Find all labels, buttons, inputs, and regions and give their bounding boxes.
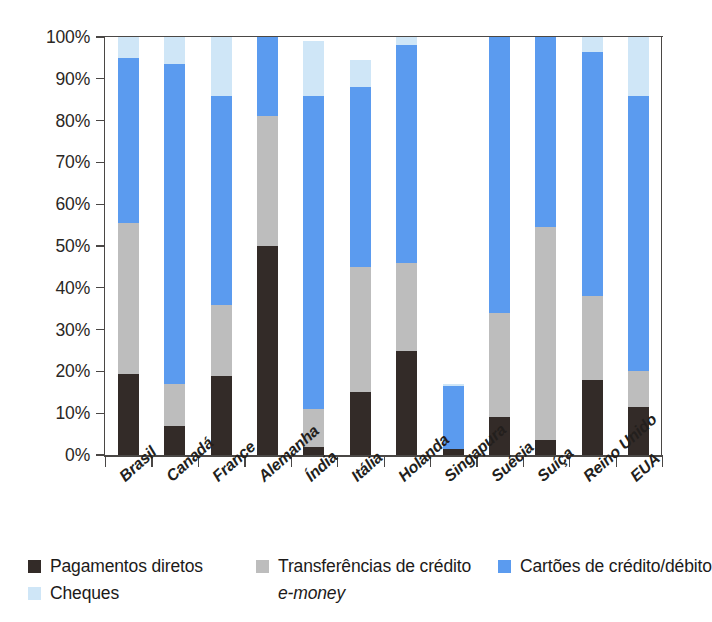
- y-tick-label: 10%: [0, 403, 90, 424]
- legend-row: Chequese-money: [28, 583, 688, 610]
- y-tick-mark: [96, 204, 105, 205]
- bar-segment: [303, 96, 324, 410]
- legend-label: e-money: [278, 583, 345, 604]
- bar-segment: [257, 246, 278, 455]
- bar-segment: [118, 37, 139, 58]
- y-tick-label: 50%: [0, 236, 90, 257]
- y-tick-mark: [96, 120, 105, 121]
- y-tick-label: 30%: [0, 320, 90, 341]
- bar-segment: [164, 37, 185, 64]
- y-tick-label: 20%: [0, 361, 90, 382]
- y-tick-label: 40%: [0, 278, 90, 299]
- legend-item[interactable]: e-money: [256, 583, 345, 604]
- bar-eua[interactable]: [628, 37, 649, 455]
- bar-segment: [164, 64, 185, 384]
- y-tick-mark: [96, 162, 105, 163]
- bar-segment: [535, 227, 556, 440]
- bar-segment: [396, 45, 417, 262]
- y-tick-mark: [96, 36, 105, 37]
- bar-segment: [257, 37, 278, 116]
- bar-segment: [118, 374, 139, 456]
- bar-segment: [350, 60, 371, 87]
- bar-reino-unido[interactable]: [582, 37, 603, 455]
- legend-item[interactable]: Cheques: [28, 583, 119, 604]
- bar-itália[interactable]: [350, 60, 371, 455]
- bar-segment: [164, 384, 185, 426]
- bar-segment: [350, 87, 371, 267]
- y-tick-label: 80%: [0, 111, 90, 132]
- y-tick-label: 90%: [0, 69, 90, 90]
- bar-segment: [350, 392, 371, 455]
- bar-segment: [489, 37, 510, 313]
- legend-item[interactable]: Pagamentos diretos: [28, 556, 203, 577]
- y-tick-mark: [96, 371, 105, 372]
- bar-segment: [211, 305, 232, 376]
- bar-segment: [118, 58, 139, 223]
- bar-brasil[interactable]: [118, 37, 139, 455]
- y-tick-mark: [96, 78, 105, 79]
- legend-label: Transferências de crédito: [278, 556, 471, 577]
- legend-swatch-icon: [28, 587, 41, 600]
- bar-suíça[interactable]: [535, 37, 556, 455]
- legend-swatch-icon: [256, 587, 269, 600]
- legend-swatch-icon: [28, 560, 41, 573]
- bar-segment: [582, 296, 603, 380]
- bar-segment: [628, 371, 649, 407]
- y-tick-label: 0%: [0, 445, 90, 466]
- bar-alemanha[interactable]: [257, 37, 278, 455]
- legend-label: Pagamentos diretos: [50, 556, 203, 577]
- plot-area: [105, 37, 662, 455]
- chart-legend: Pagamentos diretosTransferências de créd…: [28, 556, 688, 610]
- bar-segment: [211, 37, 232, 96]
- bar-suécia[interactable]: [489, 37, 510, 455]
- x-tick-mark: [105, 456, 106, 467]
- bar-segment: [489, 313, 510, 418]
- bar-holanda[interactable]: [396, 37, 417, 455]
- legend-item[interactable]: Transferências de crédito: [256, 556, 471, 577]
- bar-segment: [396, 263, 417, 351]
- bar-segment: [582, 52, 603, 297]
- bar-segment: [303, 41, 324, 95]
- bar-índia[interactable]: [303, 41, 324, 455]
- bar-segment: [211, 96, 232, 305]
- y-tick-mark: [96, 245, 105, 246]
- legend-label: Cartões de crédito/débito: [520, 556, 712, 577]
- legend-label: Cheques: [50, 583, 119, 604]
- y-tick-mark: [96, 329, 105, 330]
- legend-swatch-icon: [498, 560, 511, 573]
- legend-item[interactable]: Cartões de crédito/débito: [498, 556, 712, 577]
- bar-canadá[interactable]: [164, 37, 185, 455]
- y-tick-mark: [96, 287, 105, 288]
- bar-segment: [582, 380, 603, 455]
- y-tick-label: 60%: [0, 194, 90, 215]
- bar-segment: [118, 223, 139, 373]
- legend-row: Pagamentos diretosTransferências de créd…: [28, 556, 688, 583]
- bar-segment: [164, 426, 185, 455]
- bar-segment: [350, 267, 371, 392]
- bar-segment: [535, 37, 556, 227]
- y-tick-mark: [96, 454, 105, 455]
- legend-swatch-icon: [256, 560, 269, 573]
- bar-segment: [628, 96, 649, 372]
- y-tick-label: 70%: [0, 152, 90, 173]
- y-tick-label: 100%: [0, 27, 90, 48]
- bar-segment: [396, 351, 417, 456]
- bar-segment: [628, 37, 649, 96]
- bar-segment: [257, 116, 278, 246]
- y-tick-mark: [96, 413, 105, 414]
- bar-segment: [396, 37, 417, 45]
- bar-segment: [582, 37, 603, 52]
- bar-france[interactable]: [211, 37, 232, 455]
